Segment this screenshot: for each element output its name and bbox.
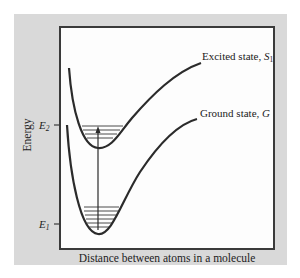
ground-state-label: Ground state, G bbox=[200, 107, 270, 119]
e1-label: E1 bbox=[38, 218, 49, 232]
e2-label: E2 bbox=[38, 119, 50, 133]
y-axis-label: Energy bbox=[21, 118, 34, 151]
x-axis-label: Distance between atoms in a molecule bbox=[79, 252, 256, 264]
excited-state-label: Excited state, S1 bbox=[202, 50, 274, 64]
potential-energy-diagram: E2 E1 Energy Distance between atoms in a… bbox=[0, 0, 300, 278]
